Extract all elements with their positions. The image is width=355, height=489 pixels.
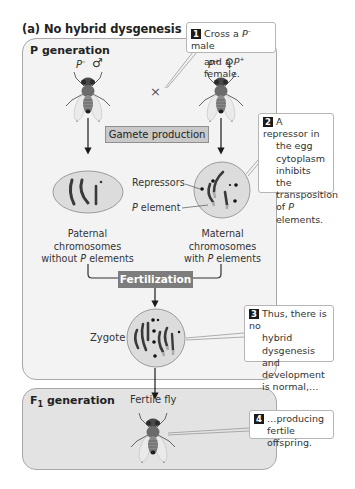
zygote-cell [127, 309, 185, 367]
callout-1: 1Cross a P– male and a P+ female. [186, 22, 276, 53]
paternal-caption: Paternal chromosomes without P elements [30, 228, 145, 266]
step-2-badge: 2 [263, 117, 273, 127]
callout-3: 3Thus, there is no hybrid dysgenesis and… [244, 305, 334, 362]
zygote-label: Zygote [90, 332, 125, 343]
maternal-cell [194, 162, 250, 218]
fertilization-label: Fertilization [118, 271, 193, 288]
male-fly-icon [66, 72, 110, 122]
step-1-badge: 1 [191, 29, 201, 39]
callout-2: 2A repressor in the egg cytoplasm inhibi… [258, 113, 334, 193]
f1-fertile-fly-icon [131, 413, 175, 463]
male-symbol-icon: ♂ [92, 56, 103, 70]
repressors-label: Repressors [132, 177, 185, 188]
maternal-caption: Maternal chromosomes with P elements [165, 228, 280, 266]
male-genotype-label: P– [76, 58, 86, 70]
cross-symbol: × [150, 84, 161, 99]
gamete-production-label: Gamete production [105, 126, 209, 143]
step-4-badge: 4 [254, 414, 264, 424]
p-element-label: P element [132, 202, 180, 213]
step-3-badge: 3 [249, 309, 259, 319]
callout-4: 4…producing fertile offspring. [249, 410, 334, 439]
paternal-cell [53, 171, 123, 213]
